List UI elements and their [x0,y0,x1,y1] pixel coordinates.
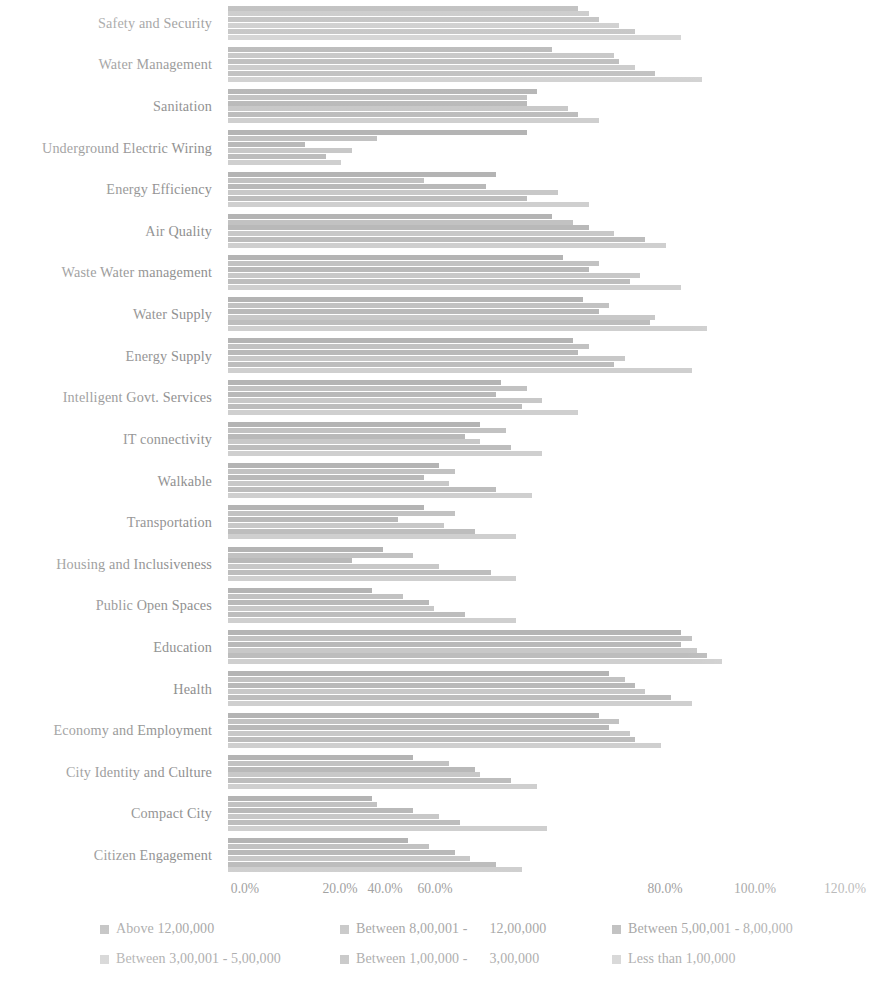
bar [228,243,666,248]
bar [228,517,398,522]
bar [228,309,599,314]
legend-label: Less than 1,00,000 [628,952,736,966]
bar [228,439,480,444]
category-label-row: Compact City [0,793,222,835]
category-label-row: Public Open Spaces [0,585,222,627]
category-label-row: Water Supply [0,293,222,335]
bar [228,89,537,94]
bar [228,778,511,783]
x-axis-tick-label: 0.0% [231,880,259,898]
bar [228,558,352,563]
bar [228,422,480,427]
category-label-row: Transportation [0,501,222,543]
bar [228,398,542,403]
bar [228,225,589,230]
bar [228,434,465,439]
bar [228,350,578,355]
bar [228,534,516,539]
category-label: Energy Efficiency [106,182,212,196]
bar [228,118,599,123]
category-label-row: Energy Supply [0,335,222,377]
bar [228,386,527,391]
legend-item[interactable]: Above 12,00,000 [100,922,214,936]
category-label-row: Air Quality [0,210,222,252]
legend-swatch-icon [340,925,349,934]
bar [228,285,681,290]
bar [228,725,609,730]
bar [228,428,506,433]
bar [228,767,475,772]
bar [228,279,630,284]
bar [228,862,496,867]
bar [228,653,707,658]
bar-group [228,418,846,460]
bar [228,344,589,349]
bar [228,237,645,242]
bar-group [228,626,846,668]
bar [228,719,619,724]
legend-label: Above 12,00,000 [116,922,214,936]
bar [228,59,619,64]
legend-item[interactable]: Between 1,00,000 -3,00,000 [340,952,539,966]
bar [228,683,635,688]
bar [228,255,563,260]
legend-swatch-icon [100,925,109,934]
bar [228,101,527,106]
chart-legend: Above 12,00,000Between 8,00,001 -12,00,0… [0,922,877,980]
bar [228,303,609,308]
category-label: Citizen Engagement [94,848,212,862]
bar [228,392,496,397]
bar-group [228,585,846,627]
category-label-row: Housing and Inclusiveness [0,543,222,585]
bar [228,838,408,843]
bar [228,802,377,807]
bar [228,267,589,272]
category-label: IT connectivity [123,432,212,446]
bar [228,95,527,100]
bar-group [228,543,846,585]
category-label-row: Walkable [0,460,222,502]
bar [228,463,439,468]
category-label-row: Sanitation [0,85,222,127]
legend-row: Above 12,00,000Between 8,00,001 -12,00,0… [0,922,877,948]
category-label: Walkable [158,474,212,488]
bar [228,29,635,34]
bar [228,731,630,736]
bar [228,671,609,676]
bar [228,642,681,647]
bar [228,445,511,450]
bar [228,755,413,760]
legend-item[interactable]: Less than 1,00,000 [612,952,736,966]
bar [228,820,460,825]
bar [228,475,424,480]
legend-label: Between 8,00,001 -12,00,000 [356,922,546,936]
category-label-row: Waste Water management [0,252,222,294]
bar [228,570,491,575]
bar [228,356,625,361]
bar [228,808,413,813]
bar [228,553,413,558]
legend-label-tail: 12,00,000 [489,921,546,936]
bar [228,659,722,664]
bar [228,362,614,367]
bar [228,154,326,159]
bar [228,564,439,569]
category-label: Transportation [127,515,212,529]
bar [228,273,640,278]
bar [228,71,655,76]
bar [228,142,305,147]
category-label-row: Health [0,668,222,710]
category-label: Compact City [131,806,212,820]
bar [228,630,681,635]
bar [228,844,429,849]
bar [228,451,542,456]
bar [228,772,480,777]
bar [228,529,475,534]
bar [228,77,702,82]
legend-label: Between 3,00,001 - 5,00,000 [116,952,281,966]
legend-item[interactable]: Between 3,00,001 - 5,00,000 [100,952,281,966]
legend-item[interactable]: Between 8,00,001 -12,00,000 [340,922,546,936]
legend-item[interactable]: Between 5,00,001 - 8,00,000 [612,922,793,936]
bar [228,202,589,207]
category-label: Public Open Spaces [96,598,212,612]
